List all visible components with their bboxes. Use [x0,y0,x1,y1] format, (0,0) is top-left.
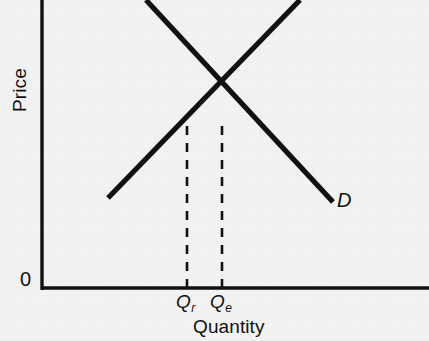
supply-demand-figure: Price Quantity 0 D Qr Qe [0,0,429,341]
x-axis-title: Quantity [193,316,265,338]
x-tick-label-qr-base: Q [176,291,191,312]
x-tick-label-qr-subscript: r [191,301,195,315]
x-tick-label-qe: Qe [210,291,231,313]
x-tick-label-qe-subscript: e [225,301,232,315]
demand-curve-label: D [337,189,351,212]
x-tick-label-qr: Qr [176,291,195,313]
plot-canvas [0,0,429,341]
y-axis-title: Price [9,55,31,125]
x-tick-label-qe-base: Q [210,291,225,312]
origin-label: 0 [20,268,31,291]
supply-curve [108,0,300,198]
demand-curve [146,0,333,202]
